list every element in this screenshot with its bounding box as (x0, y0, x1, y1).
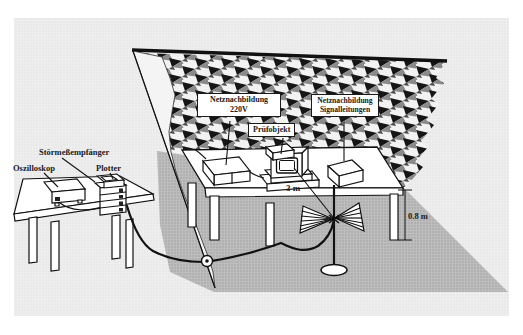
test-table-edge (205, 188, 403, 197)
label-plotter: Plotter (96, 164, 121, 173)
test-table-leg (210, 196, 219, 240)
test-table-leg (266, 203, 274, 246)
antenna-base (321, 265, 347, 276)
test-table-leg (390, 194, 398, 240)
callout-lisn-signal: Netznachbildung Signalleitungen (311, 94, 379, 117)
callout-lisn-mains: Netznachbildung 220V (197, 93, 281, 117)
equipment-table-leg (112, 215, 120, 259)
label-height-08m: 0.8 m (408, 212, 428, 221)
feedthrough-pin (205, 259, 209, 263)
equipment-table-leg (51, 221, 59, 271)
emc-test-setup-figure: Störmeßempfänger Oszilloskop Plotter Net… (0, 0, 523, 335)
label-distance-3m: 3 m (286, 184, 300, 194)
equipment-table-leg (29, 217, 37, 263)
equipment-table-leg (126, 219, 133, 268)
diagram-artwork (0, 0, 523, 335)
label-receiver: Störmeßempfänger (39, 148, 109, 157)
callout-lisn-signal-line2: Signalleitungen (314, 105, 376, 114)
label-oscilloscope: Oszilloskop (13, 164, 55, 173)
callout-eut: Prüfobjekt (248, 123, 295, 137)
callout-lisn-mains-line1: Netznachbildung (200, 95, 278, 105)
callout-lisn-mains-line2: 220V (200, 105, 278, 115)
callout-eut-text: Prüfobjekt (253, 125, 290, 135)
callout-lisn-signal-line1: Netznachbildung (314, 96, 376, 105)
test-table-rear-leg (188, 183, 196, 227)
